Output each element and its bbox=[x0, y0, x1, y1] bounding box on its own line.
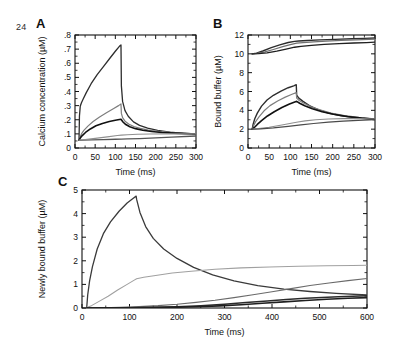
curves-group bbox=[79, 45, 196, 140]
y-tick-label: 8 bbox=[239, 68, 244, 78]
x-tick-label: 250 bbox=[347, 152, 361, 162]
x-tick-label: 200 bbox=[149, 152, 163, 162]
y-tick-label: 1 bbox=[73, 279, 78, 289]
y-tick-label: 4 bbox=[73, 209, 78, 219]
x-tick-label: 100 bbox=[108, 152, 122, 162]
curve-peak-curve-dark bbox=[87, 196, 367, 307]
curves-group bbox=[252, 38, 375, 129]
y-tick-label: 12 bbox=[235, 30, 245, 40]
curves-group bbox=[87, 196, 367, 308]
x-tick-label: 150 bbox=[304, 152, 318, 162]
x-tick-label: 150 bbox=[128, 152, 142, 162]
y-tick-label: .2 bbox=[64, 115, 71, 125]
chart-c-svg: 0100200300400500600012345Time (ms)Newly … bbox=[34, 176, 384, 354]
x-axis-title: Time (ms) bbox=[204, 327, 244, 337]
y-tick-label: 0 bbox=[66, 143, 71, 153]
x-tick-label: 200 bbox=[326, 152, 340, 162]
y-tick-label: 2 bbox=[239, 124, 244, 134]
y-tick-label: 0 bbox=[73, 303, 78, 313]
panel-a-calcium-concentration: 0501001502002503000.1.2.3.4.5.6.7.8Time … bbox=[34, 18, 206, 168]
x-tick-label: 300 bbox=[217, 312, 231, 322]
y-axis-title: Newly bound buffer (µM) bbox=[37, 200, 47, 299]
y-tick-label: 6 bbox=[239, 87, 244, 97]
y-tick-label: .4 bbox=[64, 87, 71, 97]
x-tick-label: 600 bbox=[360, 312, 374, 322]
y-tick-label: 4 bbox=[239, 105, 244, 115]
plot-frame bbox=[75, 35, 196, 148]
x-tick-label: 400 bbox=[265, 312, 279, 322]
panel-c-newly-bound-buffer: 0100200300400500600012345Time (ms)Newly … bbox=[34, 176, 384, 354]
x-tick-label: 300 bbox=[189, 152, 203, 162]
x-tick-label: 100 bbox=[283, 152, 297, 162]
y-tick-label: .7 bbox=[64, 44, 71, 54]
y-tick-label: .3 bbox=[64, 101, 71, 111]
curve-lower-curve-1 bbox=[252, 85, 375, 129]
x-tick-label: 100 bbox=[122, 312, 136, 322]
y-tick-label: .1 bbox=[64, 129, 71, 139]
x-tick-label: 0 bbox=[246, 152, 251, 162]
x-tick-label: 0 bbox=[80, 312, 85, 322]
y-axis-title: Bound buffer (µM) bbox=[213, 55, 223, 128]
curve-rising-plateau-light bbox=[87, 265, 367, 307]
y-tick-label: 0 bbox=[239, 143, 244, 153]
y-tick-label: .5 bbox=[64, 72, 71, 82]
x-tick-label: 0 bbox=[73, 152, 78, 162]
y-tick-label: 3 bbox=[73, 232, 78, 242]
y-tick-label: 2 bbox=[73, 256, 78, 266]
plot-frame bbox=[82, 190, 367, 308]
chart-a-svg: 0501001502002503000.1.2.3.4.5.6.7.8Time … bbox=[34, 18, 206, 168]
x-tick-label: 250 bbox=[169, 152, 183, 162]
x-tick-label: 200 bbox=[170, 312, 184, 322]
page-number: 24 bbox=[16, 22, 26, 32]
y-tick-label: 10 bbox=[235, 49, 245, 59]
x-tick-label: 50 bbox=[264, 152, 274, 162]
x-tick-label: 300 bbox=[368, 152, 382, 162]
figure-root: 24 A B C 0501001502002503000.1.2.3.4.5.6… bbox=[0, 0, 401, 354]
x-tick-label: 50 bbox=[90, 152, 100, 162]
y-tick-label: .8 bbox=[64, 30, 71, 40]
y-tick-label: 5 bbox=[73, 185, 78, 195]
panel-b-bound-buffer: 050100150200250300024681012Time (ms)Boun… bbox=[210, 18, 385, 168]
y-axis-title: Calcium concentration (µM) bbox=[37, 36, 47, 146]
x-tick-label: 500 bbox=[312, 312, 326, 322]
y-tick-label: .6 bbox=[64, 58, 71, 68]
curve-lower-curve-5-flat bbox=[252, 120, 375, 129]
chart-b-svg: 050100150200250300024681012Time (ms)Boun… bbox=[210, 18, 385, 168]
